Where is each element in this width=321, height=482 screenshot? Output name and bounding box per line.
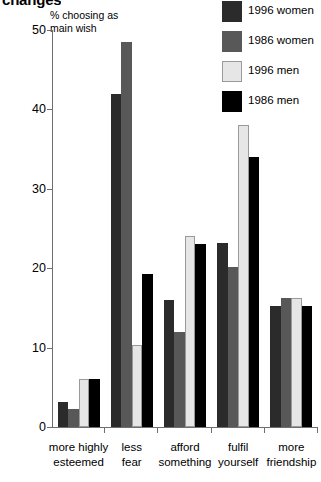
x-axis-tick <box>211 427 212 433</box>
bar <box>174 332 185 427</box>
bar-group <box>52 30 105 427</box>
y-axis-tick-label: 10 <box>14 341 46 355</box>
y-axis-tick-labels: 01020304050 <box>0 30 46 427</box>
bar <box>195 244 206 427</box>
bar-group <box>105 30 158 427</box>
bar <box>121 42 132 427</box>
bar <box>68 409 79 427</box>
x-axis-category-label: more friendship <box>255 440 321 470</box>
y-axis-tick <box>47 427 52 428</box>
x-axis-tick <box>104 427 105 433</box>
bar <box>185 236 196 427</box>
x-axis-line <box>52 427 318 428</box>
bar <box>281 298 292 427</box>
bar <box>164 300 175 427</box>
chart-title: changes <box>2 0 61 9</box>
x-axis-tick <box>264 427 265 433</box>
x-axis-category-labels: more highly esteemedless fearafford some… <box>52 440 318 480</box>
bar <box>238 125 249 427</box>
bar <box>89 379 100 427</box>
bar <box>228 267 239 427</box>
bar <box>302 306 313 427</box>
x-axis-tick <box>317 427 318 433</box>
legend-swatch <box>222 31 242 52</box>
x-axis-tick <box>157 427 158 433</box>
legend-label: 1996 women <box>248 4 314 16</box>
bar-group <box>265 30 318 427</box>
legend-label: 1986 men <box>248 94 299 106</box>
legend-label: 1986 women <box>248 34 314 46</box>
y-axis-tick-label: 30 <box>14 182 46 196</box>
bar <box>217 243 228 427</box>
plot-area <box>52 30 318 427</box>
bar <box>270 306 281 427</box>
bar-chart: changes % choosing as main wish 01020304… <box>0 0 321 482</box>
bar <box>111 94 122 427</box>
y-axis-tick-label: 40 <box>14 102 46 116</box>
bar <box>132 345 143 427</box>
bar <box>291 298 302 427</box>
legend-label: 1996 men <box>248 64 299 76</box>
bar <box>249 157 260 427</box>
bar <box>142 274 153 427</box>
legend-swatch <box>222 1 242 22</box>
bar <box>79 379 90 427</box>
legend-swatch <box>222 91 242 112</box>
y-axis-tick-label: 20 <box>14 261 46 275</box>
legend-swatch <box>222 61 242 82</box>
y-axis-tick-label: 0 <box>14 420 46 434</box>
bar <box>58 402 69 427</box>
y-axis-tick-label: 50 <box>14 23 46 37</box>
bar-group <box>212 30 265 427</box>
bar-group <box>158 30 211 427</box>
